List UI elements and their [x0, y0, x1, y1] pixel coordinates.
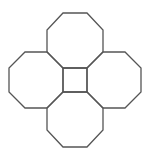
- octagon-bottom: [47, 92, 103, 147]
- center-square: [63, 68, 87, 92]
- octagon-tiling-diagram: [0, 0, 152, 158]
